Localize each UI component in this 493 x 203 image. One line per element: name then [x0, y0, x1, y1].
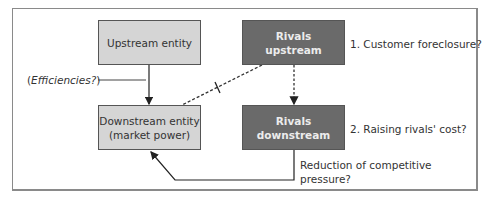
rivals-downstream-label-2: downstream	[257, 128, 331, 142]
raising-rivals-cost-label: 2. Raising rivals' cost?	[350, 122, 467, 136]
rivals-downstream-box: Rivals downstream	[242, 105, 345, 150]
rivals-downstream-label-1: Rivals	[276, 114, 311, 128]
foreclosure-dashed-line	[182, 65, 262, 105]
rivals-upstream-label-2: upstream	[265, 43, 322, 57]
downstream-entity-label-2: (market power)	[109, 128, 190, 142]
customer-foreclosure-label: 1. Customer foreclosure?	[350, 37, 482, 51]
downstream-entity-box: Downstream entity (market power)	[98, 105, 201, 150]
rivals-upstream-label-1: Rivals	[276, 29, 311, 43]
competitive-pressure-arrow	[151, 150, 294, 180]
efficiencies-label: (Efficiencies?)	[27, 73, 100, 87]
reduction-pressure-label: Reduction of competitive pressure?	[300, 158, 432, 186]
rivals-upstream-box: Rivals upstream	[242, 20, 345, 65]
upstream-entity-label: Upstream entity	[107, 36, 192, 50]
downstream-entity-label-1: Downstream entity	[99, 114, 199, 128]
upstream-entity-box: Upstream entity	[98, 20, 201, 65]
